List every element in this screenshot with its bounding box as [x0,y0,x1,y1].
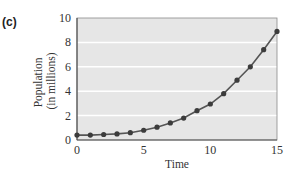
data-point [101,132,106,137]
x-tick-label: 0 [74,143,80,157]
y-tick-label: 10 [59,11,71,25]
x-axis-ticks: 051015 [74,143,283,157]
data-point [261,47,266,52]
y-tick-label: 8 [65,35,71,49]
data-point [194,108,199,113]
data-point [154,125,159,130]
x-axis-title: Time [165,158,189,170]
data-point [208,101,213,106]
y-axis-title-line2: (in millions) [45,52,58,109]
data-point [88,133,93,138]
data-point [248,64,253,69]
data-point [114,131,119,136]
y-tick-label: 4 [65,84,71,98]
population-line-chart: 0246810 051015 Time Population (in milli… [0,0,293,178]
y-axis-title: Population (in millions) [32,52,58,109]
y-tick-label: 6 [65,60,71,74]
plot-area [77,18,277,140]
data-point [168,120,173,125]
y-axis-ticks: 0246810 [59,11,71,147]
data-point [74,133,79,138]
data-point [234,78,239,83]
x-tick-label: 5 [141,143,147,157]
data-point [221,91,226,96]
x-tick-label: 10 [204,143,216,157]
y-axis-title-line1: Population [32,57,45,107]
y-tick-label: 2 [65,109,71,123]
data-point [181,115,186,120]
x-tick-label: 15 [271,143,283,157]
data-point [128,130,133,135]
y-tick-label: 0 [65,133,71,147]
data-point [274,29,279,34]
data-point [141,128,146,133]
